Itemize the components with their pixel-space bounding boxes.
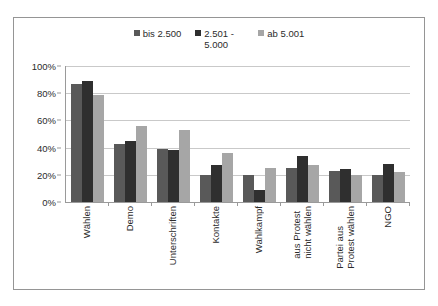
bar[interactable] [222, 153, 233, 202]
bar[interactable] [93, 95, 104, 202]
x-axis-label-cell: Demo [108, 206, 151, 292]
plot-area [65, 66, 410, 203]
y-axis-tick-mark [57, 66, 61, 67]
x-axis-label-cell: aus Protest nicht wählen [280, 206, 323, 292]
x-axis-tick-mark [409, 202, 410, 206]
bar[interactable] [286, 168, 297, 202]
y-axis-tick-label: 0% [42, 197, 56, 208]
bar[interactable] [157, 149, 168, 202]
x-axis-category-label: Partei aus Protest wählen [334, 206, 356, 269]
bar[interactable] [114, 144, 125, 202]
bar[interactable] [340, 169, 351, 202]
bar-group [152, 66, 195, 202]
x-axis-label-cell: Wahlkampf [237, 206, 280, 292]
chart-container: bis 2.500 2.501 - 5.000 ab 5.001 0%20%40… [13, 17, 425, 290]
y-axis-tick-mark [57, 174, 61, 175]
y-axis-tick-label: 60% [37, 115, 56, 126]
bar[interactable] [179, 130, 190, 202]
x-axis-category-label: Kontakte [210, 206, 221, 244]
x-axis-labels: WählenDemoUnterschriftenKontakteWahlkamp… [65, 206, 409, 292]
y-axis: 0%20%40%60%80%100% [29, 66, 61, 202]
bar[interactable] [243, 175, 254, 202]
bar[interactable] [329, 171, 340, 202]
x-axis-category-label: NGO [382, 206, 393, 228]
bar[interactable] [71, 84, 82, 202]
x-axis-category-label: Unterschriften [167, 206, 178, 265]
bar[interactable] [82, 81, 93, 202]
y-axis-tick-mark [57, 147, 61, 148]
x-axis-category-label: Wählen [81, 206, 92, 238]
x-axis-label-cell: Wählen [65, 206, 108, 292]
bar[interactable] [136, 126, 147, 202]
legend-item-ab-5001[interactable]: ab 5.001 [258, 28, 304, 39]
x-axis-category-label: Wahlkampf [253, 206, 264, 253]
bar-group [281, 66, 324, 202]
bar-group [109, 66, 152, 202]
y-axis-tick-label: 40% [37, 142, 56, 153]
bar[interactable] [394, 172, 405, 202]
legend-swatch-icon [195, 30, 201, 36]
bar[interactable] [308, 165, 319, 202]
bar[interactable] [200, 175, 211, 202]
bar-group [367, 66, 410, 202]
y-axis-tick-label: 100% [32, 61, 56, 72]
y-axis-tick-mark [57, 93, 61, 94]
bar[interactable] [297, 156, 308, 202]
y-axis-tick-mark [57, 202, 61, 203]
y-axis-tick-label: 80% [37, 88, 56, 99]
bar[interactable] [265, 168, 276, 202]
bar-group [324, 66, 367, 202]
x-axis-label-cell: Kontakte [194, 206, 237, 292]
x-axis-category-label: Demo [124, 206, 135, 231]
bars-layer [66, 66, 410, 202]
y-axis-tick-mark [57, 120, 61, 121]
legend-item-bis-2500[interactable]: bis 2.500 [134, 28, 182, 39]
plot-wrapper: 0%20%40%60%80%100% [29, 66, 411, 220]
bar[interactable] [372, 175, 383, 202]
legend-swatch-icon [134, 30, 140, 36]
bar-group [238, 66, 281, 202]
x-axis-label-cell: NGO [366, 206, 409, 292]
bar[interactable] [168, 150, 179, 202]
legend-item-label: 2.501 - 5.000 [204, 28, 244, 50]
bar[interactable] [125, 141, 136, 202]
bar[interactable] [383, 164, 394, 202]
x-axis-category-label: aus Protest nicht wählen [291, 206, 313, 259]
x-axis-label-cell: Partei aus Protest wählen [323, 206, 366, 292]
bar[interactable] [211, 165, 222, 202]
bar[interactable] [254, 190, 265, 202]
legend-item-label: bis 2.500 [143, 28, 182, 39]
bar-group [195, 66, 238, 202]
y-axis-tick-label: 20% [37, 169, 56, 180]
legend-item-label: ab 5.001 [267, 28, 304, 39]
chart-legend: bis 2.500 2.501 - 5.000 ab 5.001 [14, 28, 424, 50]
legend-swatch-icon [258, 30, 264, 36]
bar-group [66, 66, 109, 202]
x-axis-label-cell: Unterschriften [151, 206, 194, 292]
bar[interactable] [351, 175, 362, 202]
legend-item-2501-5000[interactable]: 2.501 - 5.000 [195, 28, 244, 50]
